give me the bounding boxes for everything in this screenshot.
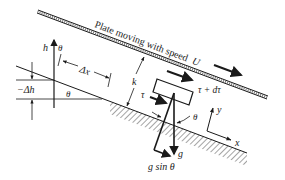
x-axis-arrow [207,131,231,140]
shear-top-arrow [167,71,192,80]
theta-arc-right [177,116,190,123]
tau-label: τ [141,90,145,100]
delta-x-tick-left [58,54,61,66]
k-label: k [132,76,137,87]
plate-velocity-arrow [214,65,241,75]
delta-x-tick-right [108,73,111,87]
gravity-component-tangential [154,150,170,156]
k-arrow-up [136,57,144,74]
g-label: g [178,148,183,159]
shear-bottom-arrow [150,97,166,103]
theta-top-label: θ [58,43,63,53]
minus-delta-h-label: −Δh [17,84,35,95]
delta-x-arrow-right [94,72,109,78]
delta-x-arrow-left [63,61,78,66]
theta-block-label: θ [193,112,198,122]
tau-plus-dtau-label: τ + dτ [198,85,221,95]
theta-arc-left [152,112,161,117]
y-axis-label: y [216,104,222,115]
k-arrow-down [127,88,134,106]
plate-label: Plate moving with speed U [93,19,202,69]
y-axis-arrow [207,108,213,131]
x-axis-label: x [234,137,240,148]
h-label: h [43,42,48,53]
theta-base-label: θ [66,89,71,99]
moving-plate [37,10,268,99]
film-flow-diagram: Plate moving with speed U h θ −Δh θ Δx k… [0,0,285,180]
delta-x-label: Δx [77,63,92,77]
g-sin-theta-label: g sin θ [148,161,175,172]
